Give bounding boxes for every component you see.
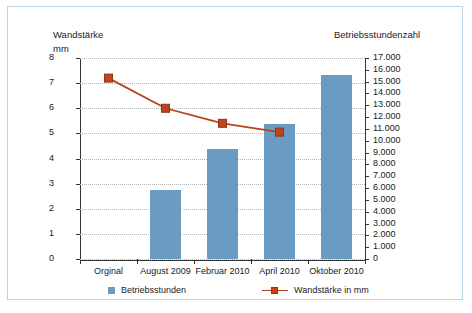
left-axis-tick-label: 3 [49,178,54,188]
right-axis-tick-label: 8.000 [373,158,396,168]
left-axis-title: Wandstärke [53,29,103,40]
left-axis-tick-label: 1 [49,228,54,238]
right-axis-tick-label: 17.000 [373,52,401,62]
right-axis-tick-label: 7.000 [373,170,396,180]
right-axis-tick-label: 2.000 [373,229,396,239]
left-axis-tick-label: 8 [49,52,54,62]
legend-item-wandstaerke: Wandstärke in mm [262,285,369,295]
right-axis-tick [365,93,369,94]
line-series [80,58,365,259]
right-axis-line [365,58,366,261]
right-axis-tick-label: 13.000 [373,99,401,109]
right-axis-tick-label: 0 [373,253,378,263]
category-label: August 2009 [140,266,191,276]
right-axis-tick [365,141,369,142]
right-axis-tick [365,164,369,165]
line-marker [105,74,113,82]
right-axis-tick [365,129,369,130]
line-marker-swatch-icon [262,286,288,295]
x-axis-tick [365,259,366,264]
right-axis-tick [365,105,369,106]
right-axis-tick-label: 15.000 [373,76,401,86]
right-axis-tick [365,247,369,248]
chart-frame: Wandstärke mm Betriebsstundenzahl 876543… [7,6,463,300]
right-axis-tick-label: 10.000 [373,135,401,145]
left-axis-tick-label: 0 [49,253,54,263]
right-axis-tick [365,176,369,177]
line-path [109,78,280,132]
left-axis-unit-label: mm [53,43,69,54]
right-axis-title: Betriebsstundenzahl [334,29,420,40]
category-label: Februar 2010 [195,266,249,276]
right-axis-tick [365,58,369,59]
legend-label: Wandstärke in mm [294,285,369,295]
right-axis-tick-label: 4.000 [373,206,396,216]
right-axis-tick-label: 16.000 [373,64,401,74]
gridline [80,259,365,260]
category-label: April 2010 [259,266,300,276]
right-axis-tick-label: 12.000 [373,111,401,121]
category-label: Oktober 2010 [309,266,364,276]
line-marker [162,104,170,112]
legend-item-betriebsstunden: Betriebsstunden [108,285,186,295]
right-axis-tick-label: 3.000 [373,218,396,228]
left-axis-tick-label: 6 [49,102,54,112]
right-axis-tick-label: 5.000 [373,194,396,204]
left-axis-tick-label: 7 [49,77,54,87]
right-axis-tick [365,117,369,118]
legend-label: Betriebsstunden [121,285,186,295]
right-axis-tick [365,70,369,71]
right-axis-tick-label: 11.000 [373,123,400,133]
line-marker [276,128,284,136]
right-axis-tick-label: 1.000 [373,241,396,251]
square-swatch-icon [108,287,115,294]
right-axis-tick [365,153,369,154]
plot-area [80,58,365,259]
chart-legend: Betriebsstunden Wandstärke in mm [80,285,380,301]
right-axis-tick [365,235,369,236]
line-marker [219,119,227,127]
category-label: Orginal [94,266,123,276]
right-axis-tick [365,200,369,201]
right-axis-tick [365,188,369,189]
right-axis-tick-label: 6.000 [373,182,396,192]
left-axis-tick-label: 2 [49,203,54,213]
right-axis-tick-label: 14.000 [373,87,401,97]
right-axis-tick [365,224,369,225]
right-axis-tick [365,82,369,83]
right-axis-tick-label: 9.000 [373,147,396,157]
right-axis-tick [365,212,369,213]
left-axis-tick-label: 5 [49,127,54,137]
left-axis-tick-label: 4 [49,153,54,163]
